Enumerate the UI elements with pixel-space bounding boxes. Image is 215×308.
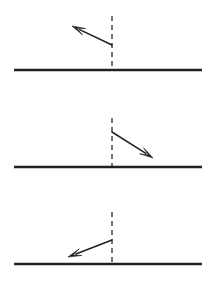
vector-shaft-2 <box>112 132 146 153</box>
panel-1 <box>14 16 202 70</box>
vector-shaft-1 <box>80 30 112 45</box>
arrow-down-left-3 <box>68 240 112 257</box>
arrow-down-right-2 <box>112 132 153 158</box>
arrowhead-2 <box>140 148 153 158</box>
arrow-up-left-1 <box>72 26 112 45</box>
panel-2 <box>14 118 202 167</box>
three-panel-vector-diagram <box>0 0 215 308</box>
figure-canvas <box>0 0 215 308</box>
vector-shaft-3 <box>76 240 112 254</box>
panel-3 <box>14 212 202 264</box>
arrowhead-1 <box>72 26 86 35</box>
